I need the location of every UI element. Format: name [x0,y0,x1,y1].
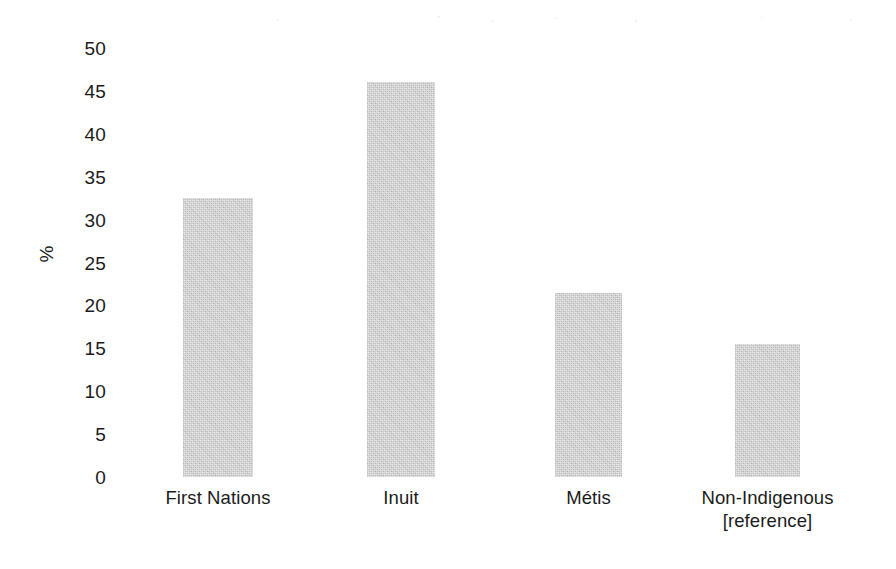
bar [555,293,622,477]
y-axis-tick-label: 45 [60,81,106,100]
bar [367,82,435,477]
x-axis-tick-label: Non-Indigenous[reference] [648,486,888,532]
y-axis-tick-labels: 50454035302520151050 [60,0,106,569]
x-axis-tick-label-line1: Métis [566,487,611,508]
y-axis-tick-label: 20 [60,296,106,315]
y-axis-tick-label: 10 [60,382,106,401]
bar-chart: % 50454035302520151050 First NationsInui… [0,0,896,569]
x-axis-tick-label-line1: First Nations [165,487,270,508]
x-axis-tick-label-line2: [reference] [648,509,888,532]
plot-area [120,30,880,477]
y-axis-tick-label: 30 [60,210,106,229]
bar [183,198,253,477]
bar [735,344,800,477]
x-axis-tick-label-line1: Non-Indigenous [701,487,833,508]
x-axis-tick-label-line1: Inuit [383,487,418,508]
y-axis-tick-label: 40 [60,124,106,143]
y-axis-tick-label: 25 [60,253,106,272]
y-axis-title: % [36,221,58,287]
scan-artifact-speckle [0,8,896,30]
y-axis-tick-label: 5 [60,425,106,444]
y-axis-tick-label: 15 [60,339,106,358]
y-axis-tick-label: 35 [60,167,106,186]
y-axis-tick-label: 50 [60,39,106,58]
y-axis-tick-label: 0 [60,468,106,487]
